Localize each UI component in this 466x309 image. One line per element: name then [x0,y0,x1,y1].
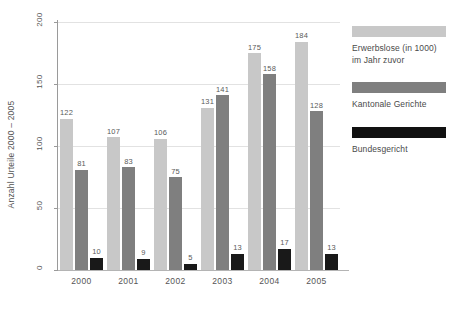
y-tick-label: 50 [35,193,44,219]
bar-group: 18412813 [295,22,338,270]
legend-entry: Kantonale Gerichte [352,82,464,111]
bar-value-label: 10 [84,247,109,256]
bar-value-label: 122 [54,108,79,117]
bar [231,254,244,270]
legend-label: Kantonale Gerichte [352,99,464,111]
bar [295,42,308,270]
bar [137,259,150,270]
bar-group: 17515817 [248,22,291,270]
y-tick-label: 150 [35,69,44,95]
x-tick-label: 2003 [199,276,246,286]
bar-value-label: 9 [131,248,156,257]
bar-value-label: 5 [178,253,203,262]
bar-value-label: 141 [210,85,235,94]
x-tick-label: 2004 [246,276,293,286]
bar-value-label: 81 [69,159,94,168]
bar [60,119,73,270]
bar-value-label: 106 [148,128,173,137]
legend-label: Erwerbslose (in 1000) [352,43,464,55]
bar [154,139,167,270]
bar-group: 1228110 [60,22,103,270]
chart-legend: Erwerbslose (in 1000)im Jahr zuvorKanton… [352,26,464,171]
bar [90,258,103,270]
legend-swatch [352,82,446,93]
plot-area: 1228110107839106755131141131751581718412… [58,22,340,270]
y-tick-label: 200 [35,7,44,33]
bar-group: 106755 [154,22,197,270]
bar-value-label: 184 [289,31,314,40]
x-axis-line [57,270,349,271]
legend-entry: Bundesgericht [352,127,464,156]
legend-label: Bundesgericht [352,144,464,156]
bar-value-label: 158 [257,64,282,73]
x-tick-label: 2001 [105,276,152,286]
bar [248,53,261,270]
bar [201,108,214,270]
x-tick-label: 2005 [293,276,340,286]
legend-entry: Erwerbslose (in 1000)im Jahr zuvor [352,26,464,66]
bar [184,264,197,270]
x-tick-label: 2000 [58,276,105,286]
y-tick-mark [54,270,58,271]
bar-chart: Anzahl Urteile 2000 – 2005 050100150200 … [0,0,466,309]
y-tick-label: 0 [35,255,44,281]
bar [278,249,291,270]
bar-value-label: 83 [116,157,141,166]
bar [325,254,338,270]
legend-swatch [352,26,446,37]
y-tick-label: 100 [35,131,44,157]
bar-value-label: 75 [163,167,188,176]
x-tick-label: 2002 [152,276,199,286]
bar-group: 13114113 [201,22,244,270]
bar-value-label: 13 [225,243,250,252]
y-axis-title: Anzahl Urteile 2000 – 2005 [0,0,22,309]
legend-swatch [352,127,446,138]
bar-value-label: 128 [304,101,329,110]
bar-value-label: 17 [272,238,297,247]
bar-group: 107839 [107,22,150,270]
bar-value-label: 13 [319,243,344,252]
bar-value-label: 107 [101,127,126,136]
bar-value-label: 175 [242,43,267,52]
legend-label: im Jahr zuvor [352,55,464,67]
